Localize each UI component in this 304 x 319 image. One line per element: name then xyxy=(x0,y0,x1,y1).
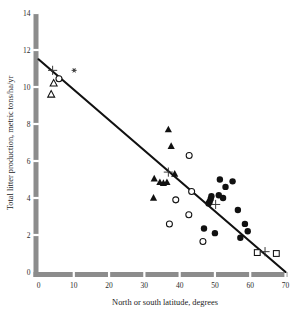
y-tick-gap xyxy=(33,234,39,236)
x-tick-gap xyxy=(249,272,251,278)
x-tick-gap xyxy=(73,272,75,278)
y-tick-gap xyxy=(33,197,39,199)
series-open-triangle xyxy=(48,80,57,98)
y-tick-gap xyxy=(33,123,39,125)
x-tick-gap xyxy=(143,272,145,278)
x-tick-gap xyxy=(214,272,216,278)
y-tick-label: 0 xyxy=(27,268,31,277)
data-points xyxy=(48,66,280,257)
point-circle-filled xyxy=(235,207,241,213)
x-tick-labels: 010203040506070 xyxy=(37,281,290,290)
y-axis-title: Total litter production, metric tons/ha/… xyxy=(6,76,15,211)
point-circle-open xyxy=(189,189,195,195)
point-circle-filled xyxy=(229,178,235,184)
point-circle-filled xyxy=(245,228,251,234)
point-circle-filled xyxy=(217,176,223,182)
x-tick-label: 0 xyxy=(37,281,41,290)
x-tick-label: 40 xyxy=(176,281,184,290)
point-circle-filled xyxy=(205,200,211,206)
series-plus-marker xyxy=(48,66,270,257)
x-axis-title: North or south latitude, degrees xyxy=(112,298,218,307)
regression-line xyxy=(39,59,286,272)
y-tick-gap xyxy=(33,86,39,88)
point-circle-filled xyxy=(201,225,207,231)
axis-bars xyxy=(33,12,287,278)
point-circle-open xyxy=(186,212,192,218)
y-tick-gap xyxy=(33,49,39,51)
point-circle-filled xyxy=(237,235,243,241)
x-tick-gap xyxy=(179,272,181,278)
point-circle-filled xyxy=(220,195,226,201)
y-tick-labels: 02468101214 xyxy=(23,9,31,277)
y-axis-bar xyxy=(34,13,39,277)
point-circle-open xyxy=(166,221,172,227)
point-square-open xyxy=(273,251,279,257)
point-circle-open xyxy=(186,152,192,158)
x-tick-label: 10 xyxy=(70,281,78,290)
y-tick-label: 12 xyxy=(23,46,31,55)
point-triangle-filled xyxy=(168,142,175,149)
x-tick-label: 50 xyxy=(211,281,219,290)
y-tick-label: 8 xyxy=(27,120,31,129)
fit-line xyxy=(39,59,286,272)
x-tick-label: 30 xyxy=(141,281,149,290)
y-tick-label: 10 xyxy=(23,83,31,92)
series-filled-circle xyxy=(201,176,251,241)
y-tick-label: 4 xyxy=(27,194,31,203)
point-square-open xyxy=(254,250,260,256)
y-tick-label: 14 xyxy=(23,9,31,18)
point-circle-filled xyxy=(242,221,248,227)
x-tick-label: 60 xyxy=(246,281,254,290)
chart-figure: 010203040506070 02468101214 North or sou… xyxy=(0,0,304,319)
x-tick-gap xyxy=(108,272,110,278)
point-circle-open xyxy=(200,238,206,244)
point-circle-open xyxy=(173,197,179,203)
point-triangle-open xyxy=(48,91,55,98)
point-circle-filled xyxy=(212,230,218,236)
y-tick-label: 6 xyxy=(27,157,31,166)
point-triangle-filled xyxy=(165,126,172,133)
point-triangle-filled xyxy=(151,175,158,182)
y-tick-gap xyxy=(33,160,39,162)
scatter-plot: 010203040506070 02468101214 North or sou… xyxy=(0,0,304,319)
x-tick-label: 70 xyxy=(282,281,290,290)
point-circle-filled xyxy=(222,184,228,190)
y-tick-label: 2 xyxy=(27,231,31,240)
point-circle-open xyxy=(56,76,62,82)
x-tick-label: 20 xyxy=(105,281,113,290)
point-triangle-filled xyxy=(150,194,157,201)
series-filled-triangle xyxy=(150,126,178,201)
series-open-circle-low-latitude xyxy=(56,76,62,82)
y-tick-gap xyxy=(33,12,39,14)
series-asterisk-marker xyxy=(72,68,77,73)
